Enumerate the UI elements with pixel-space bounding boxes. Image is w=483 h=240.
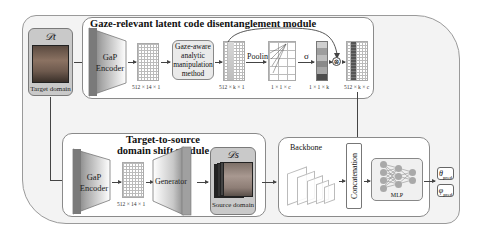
mlp-node <box>380 185 387 192</box>
bottom-encoder-label: GaP Encoder <box>79 172 109 194</box>
manip-line4: method <box>173 69 213 78</box>
arrow-from-multiply <box>342 62 345 63</box>
top-encoder-line1: GaP <box>95 52 125 63</box>
concatenation-label: Concatenation <box>350 153 359 199</box>
latent-code-grid <box>137 43 159 81</box>
latent-dim-label: 512 × 14 × 1 <box>132 84 160 90</box>
output-dim-label: 512 × k × c <box>344 84 369 90</box>
theta-pred-output: θpred <box>437 167 454 180</box>
top-encoder-line2: Encoder <box>95 63 125 74</box>
pooled-dim-label: 1 × 1 × c <box>271 84 291 90</box>
backbone-layer-5 <box>324 183 335 204</box>
arrow-pooling <box>246 62 266 63</box>
mlp-node <box>395 181 402 188</box>
sigma-label: σ <box>304 51 309 61</box>
generator-label: Generator <box>153 176 189 187</box>
mlp-block: MLP <box>371 158 423 201</box>
arrow-bottom-encoder-to-latent <box>112 182 121 183</box>
mlp-node <box>380 169 387 176</box>
connector-target-down <box>50 97 51 180</box>
manip-line3: manipulation <box>173 60 213 69</box>
attention-weight-column <box>316 41 328 81</box>
connector-gaze-to-concat <box>357 92 358 142</box>
arrow-source-to-backbone <box>262 182 276 183</box>
concatenation-block: Concatenation <box>346 143 362 209</box>
bottom-latent-dim-label: 512 × 14 × 1 <box>117 201 145 207</box>
selected-dim-label: 512 × k × 1 <box>219 84 244 90</box>
multiply-icon: ⊗ <box>332 57 341 66</box>
phi-pred-output: φpred <box>437 184 454 197</box>
shift-title-line1: Target-to-source <box>103 134 223 145</box>
gaze-feature-highlight <box>351 42 356 80</box>
mlp-label: MLP <box>372 192 422 198</box>
target-face-image <box>32 45 69 83</box>
arrow-generator-to-source <box>197 182 208 183</box>
bottom-encoder-line2: Encoder <box>79 183 109 194</box>
mlp-node <box>380 177 387 184</box>
bottom-latent-grid <box>122 162 144 198</box>
source-domain-label: Source domain <box>211 201 255 209</box>
gaze-aware-manipulation-box: Gaze-aware analytic manipulation method <box>172 40 214 80</box>
source-face-stack <box>211 162 255 200</box>
mlp-node <box>380 161 387 168</box>
arrow-backbone-to-concat <box>339 181 345 182</box>
mlp-node <box>395 165 402 172</box>
mlp-node <box>409 169 416 176</box>
backbone-label: Backbone <box>290 143 322 152</box>
pooling-fan-lines <box>268 41 296 81</box>
manip-line1: Gaze-aware <box>173 42 213 51</box>
arrow-manipulation-to-selected <box>215 62 222 63</box>
theta-subscript: pred <box>443 175 452 180</box>
target-domain-label: Target domain <box>29 85 72 93</box>
manip-line2: analytic <box>173 51 213 60</box>
bottom-encoder-line1: GaP <box>79 172 109 183</box>
arrow-sigma <box>298 62 314 63</box>
source-face-front <box>223 162 253 197</box>
phi-subscript: pred <box>443 192 452 197</box>
backbone-layers <box>285 160 345 210</box>
target-domain-symbol: 𝒟t <box>29 31 72 43</box>
mlp-node <box>409 177 416 184</box>
source-domain-box: 𝒟s Source domain <box>210 147 256 215</box>
target-domain-box: 𝒟t Target domain <box>28 28 73 96</box>
weight-dim-label: 1 × 1 × k <box>309 84 329 90</box>
arrow-mlp-to-output <box>424 181 435 182</box>
top-encoder-label: GaP Encoder <box>95 52 125 74</box>
arrow-encoder-to-latent <box>128 62 136 63</box>
source-domain-symbol: 𝒟s <box>211 149 255 161</box>
arrow-latent-to-manipulation <box>161 62 170 63</box>
mlp-node <box>395 173 402 180</box>
arrow-concat-to-mlp <box>364 181 370 182</box>
gaze-feature-grid <box>346 41 368 81</box>
